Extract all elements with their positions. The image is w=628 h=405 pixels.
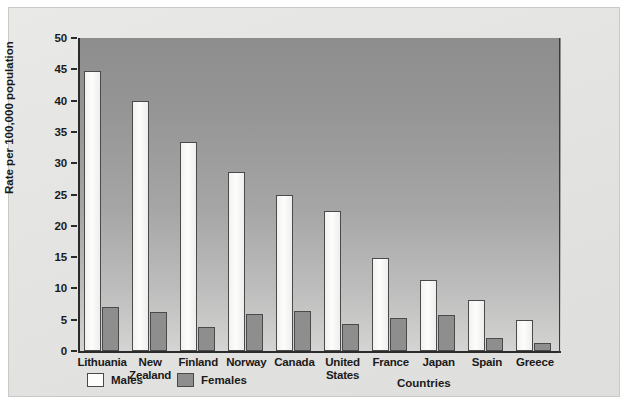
bar-males — [228, 172, 245, 351]
y-axis-tick-mark — [71, 162, 77, 164]
bar-females — [150, 312, 167, 351]
bar-females — [390, 318, 407, 351]
bar-males — [84, 71, 101, 351]
legend-label: Females — [201, 374, 247, 386]
plot-frame-right-edge — [559, 38, 560, 353]
y-axis-tick-label: 0 — [27, 345, 67, 357]
bar-females — [294, 311, 311, 351]
y-axis-tick-label: 35 — [27, 126, 67, 138]
bar-males — [324, 211, 341, 351]
y-axis-tick-label: 25 — [27, 189, 67, 201]
y-axis-tick-label: 20 — [27, 220, 67, 232]
legend-entry-female[interactable]: Females — [177, 373, 247, 387]
y-axis-tick-label: 5 — [27, 314, 67, 326]
y-axis-tick-label: 40 — [27, 95, 67, 107]
bar-males — [468, 300, 485, 351]
y-axis-tick-mark — [71, 194, 77, 196]
y-axis-tick-label: 30 — [27, 157, 67, 169]
x-axis-tick-label-line: United — [325, 356, 360, 368]
legend-label: Males — [111, 374, 143, 386]
bar-females — [342, 324, 359, 351]
x-axis-tick-label: Greece — [503, 356, 567, 369]
bar-females — [198, 327, 215, 351]
y-axis-tick-mark — [71, 319, 77, 321]
x-axis-title: Countries — [397, 377, 451, 389]
x-axis-tick-label-line: States — [326, 369, 359, 381]
y-axis-tick-mark — [71, 100, 77, 102]
legend-entry-male[interactable]: Males — [87, 373, 143, 387]
legend-swatch-male — [87, 373, 104, 387]
y-axis-tick-label: 10 — [27, 282, 67, 294]
chart-legend: MalesFemales — [87, 373, 247, 387]
y-axis-tick-mark — [71, 68, 77, 70]
y-axis-tick-mark — [71, 131, 77, 133]
x-axis-tick-label-line: New — [139, 356, 162, 368]
y-axis-tick-label: 15 — [27, 251, 67, 263]
bar-females — [486, 338, 503, 351]
y-axis-title: Rate per 100,000 population — [3, 41, 15, 194]
bar-males — [372, 258, 389, 351]
y-axis-tick-mark — [71, 256, 77, 258]
bar-females — [246, 314, 263, 351]
legend-swatch-female — [177, 373, 194, 387]
bar-males — [420, 280, 437, 351]
y-axis-tick-mark — [71, 37, 77, 39]
y-axis-tick-mark — [71, 350, 77, 352]
chart-figure: Rate per 100,000 population 051015202530… — [8, 7, 620, 397]
bar-females — [534, 343, 551, 351]
y-axis-tick-label: 45 — [27, 63, 67, 75]
plot-area — [78, 38, 561, 353]
bar-males — [516, 320, 533, 351]
bar-males — [180, 142, 197, 351]
bar-females — [438, 315, 455, 351]
bar-males — [132, 101, 149, 351]
bar-males — [276, 195, 293, 351]
y-axis-tick-mark — [71, 225, 77, 227]
bar-females — [102, 307, 119, 351]
y-axis-tick-label: 50 — [27, 32, 67, 44]
y-axis-tick-mark — [71, 287, 77, 289]
